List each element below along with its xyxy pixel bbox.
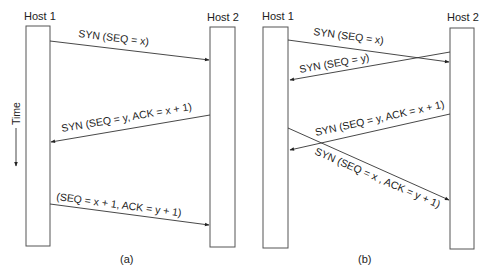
panel-a-host1-label: Host 1 <box>24 10 56 22</box>
panel-b-msg3-label: SYN (SEQ = y, ACK = x + 1) <box>314 98 445 138</box>
panel-b-msg1-label: SYN (SEQ = x) <box>313 25 385 46</box>
panel-b-msg2-label: SYN (SEQ = y) <box>298 51 370 75</box>
panel-b-msg4-arrow <box>288 128 449 200</box>
panel-b-host2-label: Host 2 <box>447 11 479 23</box>
panel-a-msg1-label: SYN (SEQ = x) <box>78 27 150 47</box>
panel-b-msg4-label: SYN (SEQ = x , ACK = y + 1) <box>313 145 442 210</box>
panel-a-host2-timeline <box>210 27 235 247</box>
panel-a-msg3-label: (SEQ = x + 1, ACK = y + 1) <box>56 190 183 218</box>
panel-b-host2-timeline <box>450 28 474 249</box>
panel-a: Host 1 Host 2 Time SYN (SEQ = x) SYN (SE… <box>10 10 239 265</box>
panel-b: Host 1 Host 2 SYN (SEQ = x) SYN (SEQ = y… <box>262 10 479 265</box>
time-axis: Time <box>10 102 22 166</box>
panel-a-host1-timeline <box>26 26 50 246</box>
panel-b-host1-label: Host 1 <box>262 10 294 22</box>
panel-b-caption: (b) <box>358 253 371 265</box>
panel-b-host1-timeline <box>263 27 288 248</box>
panel-a-caption: (a) <box>120 253 133 265</box>
panel-a-host2-label: Host 2 <box>207 11 239 23</box>
tcp-handshake-diagram: Host 1 Host 2 Time SYN (SEQ = x) SYN (SE… <box>0 0 487 271</box>
time-label: Time <box>10 102 22 125</box>
